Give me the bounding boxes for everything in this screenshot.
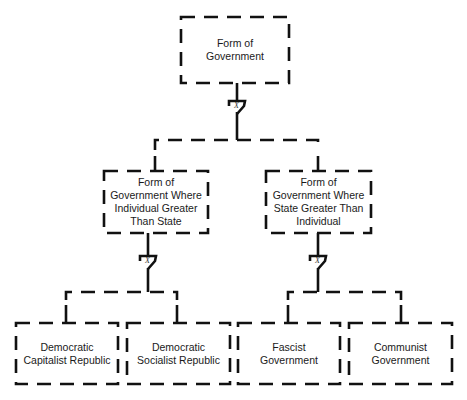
- level1-bus: [155, 140, 318, 150]
- right-bus: [288, 292, 401, 300]
- gate-right-label: X: [315, 256, 320, 265]
- node-communist: Communist Government: [349, 323, 452, 384]
- node-state-greater: Form of Government Where State Greater T…: [266, 171, 371, 233]
- gate-left-label: X: [145, 256, 150, 265]
- left-bus: [66, 292, 177, 300]
- gate-root-label: X: [234, 101, 239, 110]
- node-root: Form of Government: [181, 17, 289, 83]
- node-fascist: Fascist Government: [238, 323, 340, 384]
- node-democratic-capitalist: Democratic Capitalist Republic: [16, 323, 118, 384]
- node-democratic-socialist: Democratic Socialist Republic: [127, 323, 230, 384]
- node-individual-greater: Form of Government Where Individual Grea…: [104, 171, 208, 233]
